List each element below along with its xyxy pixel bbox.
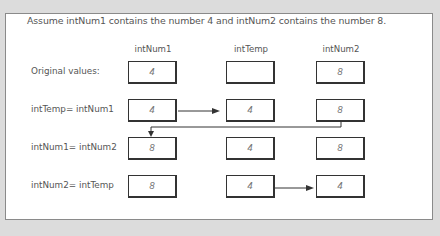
arrowhead-right-icon — [212, 108, 220, 114]
arrow-intnum2-to-intnum1 — [151, 122, 341, 132]
arrowhead-down-icon — [148, 131, 154, 137]
arrowhead-right-icon — [306, 185, 314, 191]
arrowhead-icons — [148, 108, 314, 191]
arrows-layer — [0, 0, 440, 236]
